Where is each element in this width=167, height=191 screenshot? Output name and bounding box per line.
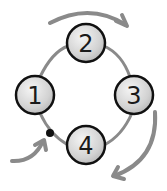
node-2: 2 xyxy=(67,24,105,62)
edge-1-2 xyxy=(40,46,68,77)
edge-3-4 xyxy=(104,113,132,145)
node-3: 3 xyxy=(115,76,153,114)
node-4: 4 xyxy=(67,126,105,164)
edge-2-3 xyxy=(104,46,130,77)
node-2-label: 2 xyxy=(78,30,93,58)
node-3-label: 3 xyxy=(126,82,141,110)
node-4-label: 4 xyxy=(78,132,93,160)
arrow-entry-icon xyxy=(12,140,46,161)
node-1: 1 xyxy=(16,76,54,114)
node-1-label: 1 xyxy=(27,82,42,110)
arrow-right-icon xyxy=(113,112,155,179)
entry-point-dot xyxy=(46,129,54,137)
cycle-diagram: 1 2 3 4 xyxy=(0,0,167,191)
